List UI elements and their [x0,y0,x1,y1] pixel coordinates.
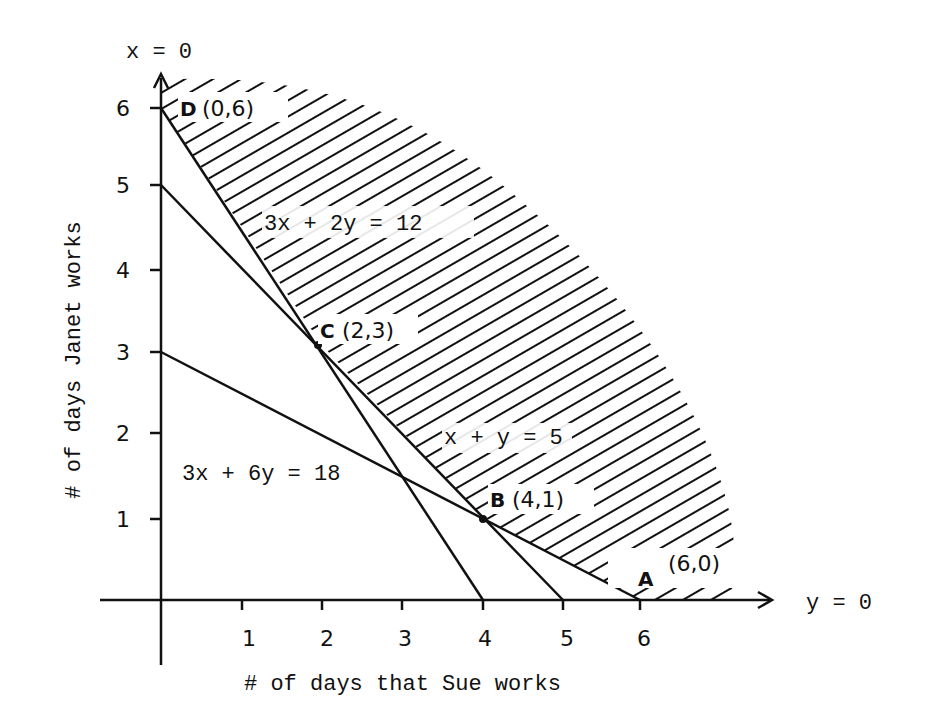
svg-text:4: 4 [116,258,130,283]
svg-text:(2,3): (2,3) [342,318,394,343]
feasible-region-chart: 1 2 3 4 5 6 1 2 3 4 5 6 x = 0 y = 0 # of… [0,0,936,725]
svg-text:3: 3 [398,626,412,651]
vertex-c-label: C (2,3) [318,314,418,344]
eq-x-y-5-label: x + y = 5 [444,426,563,451]
svg-text:B: B [490,488,505,512]
svg-text:3: 3 [116,340,130,365]
vertex-a-label: A (6,0) [608,548,748,591]
x-eq-0-label: x = 0 [126,40,192,65]
svg-text:6: 6 [116,96,130,121]
x-tick-labels: 1 2 3 4 5 6 [242,626,651,651]
svg-text:(0,6): (0,6) [202,96,254,121]
svg-text:(4,1): (4,1) [512,487,564,512]
y-tick-labels: 1 2 3 4 5 6 [116,96,130,532]
svg-text:(6,0): (6,0) [668,551,720,576]
svg-text:1: 1 [242,626,256,651]
y-axis [154,74,168,665]
svg-text:C: C [320,319,335,343]
svg-text:2: 2 [116,421,130,446]
svg-text:6: 6 [637,626,651,651]
vertex-b-label: B (4,1) [488,484,594,514]
svg-text:2: 2 [320,626,334,651]
svg-text:1: 1 [116,507,130,532]
y-axis-title: # of days Janet works [62,221,87,498]
y-eq-0-label: y = 0 [806,591,872,616]
svg-text:A: A [638,567,654,591]
vertex-d-label: D (0,6) [178,92,288,122]
x-ticks [242,600,640,610]
feasible-region-hatch [150,60,770,620]
svg-text:5: 5 [116,173,130,198]
eq-3x-6y-18-label: 3x + 6y = 18 [182,462,340,487]
x-axis-title: # of days that Sue works [244,672,561,697]
vertex-b-dot [479,515,487,523]
svg-text:5: 5 [560,626,574,651]
svg-text:D: D [180,97,197,121]
eq-3x-2y-12-label: 3x + 2y = 12 [264,212,422,237]
y-ticks [150,108,161,519]
svg-text:4: 4 [478,626,492,651]
